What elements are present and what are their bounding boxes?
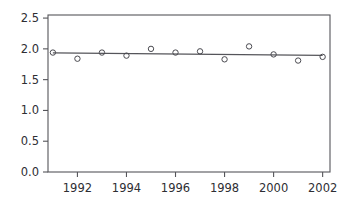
data-point-marker: [75, 56, 80, 61]
y-tick-label: 0.0: [21, 165, 39, 179]
x-tick-label: 2000: [259, 181, 288, 195]
trend-line: [53, 53, 323, 55]
x-tick-label: 1994: [112, 181, 141, 195]
x-axis-tick-labels: 199219941996199820002002: [63, 181, 337, 195]
data-point-marker: [222, 57, 227, 62]
chart-figure: 0.00.51.01.52.02.5 199219941996199820002…: [0, 0, 344, 211]
data-point-marker: [246, 44, 251, 49]
x-tick-label: 1996: [161, 181, 190, 195]
data-point-marker: [99, 50, 104, 55]
data-point-marker: [148, 46, 153, 51]
x-axis-ticks: [77, 172, 322, 177]
y-tick-label: 2.5: [21, 11, 39, 25]
scatter-plot: 0.00.51.01.52.02.5 199219941996199820002…: [0, 0, 344, 211]
x-tick-label: 1992: [63, 181, 92, 195]
plot-frame: [48, 15, 330, 172]
y-axis-ticks: [43, 18, 48, 172]
y-axis-tick-labels: 0.00.51.01.52.02.5: [21, 11, 39, 179]
y-tick-label: 0.5: [21, 134, 39, 148]
y-tick-label: 1.5: [21, 73, 39, 87]
y-tick-label: 2.0: [21, 42, 39, 56]
data-point-marker: [295, 58, 300, 63]
data-point-marker: [197, 49, 202, 54]
trend-line-series: [53, 53, 323, 55]
x-tick-label: 1998: [210, 181, 239, 195]
x-tick-label: 2002: [308, 181, 337, 195]
plot-border: [48, 15, 330, 172]
y-tick-label: 1.0: [21, 103, 39, 117]
